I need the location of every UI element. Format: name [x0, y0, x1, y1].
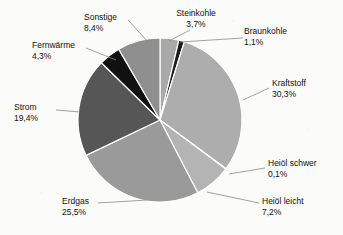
pie-label-value: 30,3%: [272, 89, 306, 100]
pie-label-sonstige: Sonstige8,4%: [84, 12, 117, 33]
pie-label-strom: Strom19,4%: [14, 102, 38, 123]
leader-line-hei-l-leicht: [207, 192, 259, 203]
pie-label-hei-l-schwer: Heiöl schwer0,1%: [268, 158, 317, 179]
pie-label-name: Heiöl leicht: [262, 196, 304, 207]
leader-line-strom: [56, 110, 80, 112]
pie-label-name: Sonstige: [84, 12, 117, 23]
pie-label-braunkohle: Braunkohle1,1%: [244, 26, 287, 47]
leader-line-hei-l-schwer: [229, 168, 265, 174]
pie-label-name: Fernwärme: [32, 40, 75, 51]
pie-label-hei-l-leicht: Heiöl leicht7,2%: [262, 196, 304, 217]
pie-label-name: Heiöl schwer: [268, 158, 317, 169]
pie-label-value: 3,7%: [176, 19, 216, 30]
leader-line-erdgas: [98, 200, 147, 203]
pie-label-erdgas: Erdgas25,5%: [62, 196, 89, 217]
pie-label-name: Steinkohle: [176, 8, 216, 19]
leader-line-braunkohle: [180, 38, 243, 42]
pie-label-value: 4,3%: [32, 51, 75, 62]
pie-label-value: 0,1%: [268, 169, 317, 180]
leader-line-steinkohle: [169, 30, 190, 41]
pie-slices-group: [78, 38, 242, 202]
pie-label-name: Erdgas: [62, 196, 89, 207]
pie-label-steinkohle: Steinkohle3,7%: [176, 8, 216, 29]
pie-label-name: Strom: [14, 102, 38, 113]
pie-label-name: Kraftstoff: [272, 78, 306, 89]
pie-chart-figure: Steinkohle3,7%Braunkohle1,1%Kraftstoff30…: [0, 0, 343, 235]
leader-line-kraftstoff: [243, 88, 269, 100]
leader-line-sonstige: [128, 20, 148, 42]
pie-label-value: 8,4%: [84, 23, 117, 34]
pie-label-value: 25,5%: [62, 207, 89, 218]
pie-label-value: 7,2%: [262, 207, 304, 218]
pie-label-kraftstoff: Kraftstoff30,3%: [272, 78, 306, 99]
pie-label-value: 1,1%: [244, 37, 287, 48]
pie-label-value: 19,4%: [14, 113, 38, 124]
pie-label-fernw-rme: Fernwärme4,3%: [32, 40, 75, 61]
pie-label-name: Braunkohle: [244, 26, 287, 37]
